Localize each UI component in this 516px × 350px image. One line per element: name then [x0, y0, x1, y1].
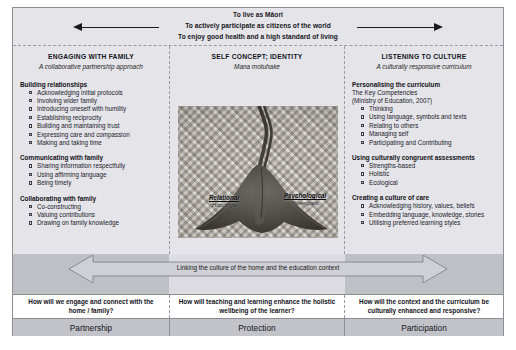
column-engaging-with-family: ENGAGING WITH FAMILY A collaborative par… [13, 46, 169, 254]
ray-label-english: Relational [192, 194, 256, 202]
list-item: Participating and Contributing [361, 139, 498, 147]
group-heading: Using culturally congruent assessments [352, 154, 498, 161]
list-item-label: Using language, symbols and texts [369, 113, 467, 120]
list-item-label: Managing self [369, 130, 408, 137]
group-creating-a-culture-of-care: Creating a culture of care Acknowledging… [352, 194, 498, 227]
group-building-relationships: Building relationships Acknowledging ini… [20, 81, 164, 148]
checkbox-bullet-icon [29, 173, 32, 176]
list-item: Acknowledging history, values, beliefs [361, 202, 498, 210]
stingray-illustration [178, 106, 338, 238]
right-arrow-icon [434, 23, 443, 31]
principle-protection: Protection [169, 319, 345, 336]
list-item-label: Making and taking time [37, 139, 102, 146]
checkbox-bullet-icon [361, 107, 364, 110]
list-item: Drawing on family knowledge [29, 219, 164, 227]
ray-label-english: Psychological [270, 192, 338, 200]
aspiration-line-3: To enjoy good health and a high standard… [13, 32, 503, 43]
checkbox-bullet-icon [29, 164, 32, 167]
poster-frame: To live as Māori To actively participate… [12, 7, 504, 336]
right-arrow-shaft [357, 27, 435, 28]
question-cell-protection: How will teaching and learning enhance t… [169, 295, 345, 318]
group-note-line-2: (Ministry of Education, 2007) [352, 97, 498, 105]
list-item-label: Holistic [369, 170, 389, 177]
left-arrow-icon [73, 23, 82, 31]
aspiration-line-1: To live as Māori [13, 10, 503, 21]
checkbox-bullet-icon [29, 213, 32, 216]
bullet-list: Co-constructing Valuing contributions Dr… [20, 203, 164, 228]
bullet-list: Acknowledging initial protocols Involvin… [20, 89, 164, 148]
list-item: Being timely [29, 179, 164, 187]
list-item: Thinking [361, 105, 498, 113]
left-column-body: Building relationships Acknowledging ini… [13, 81, 169, 228]
bullet-list: Thinking Using language, symbols and tex… [352, 105, 498, 147]
group-note-line-1: The Key Competencies [352, 89, 498, 97]
list-item-label: Co-constructing [37, 203, 81, 210]
list-item-label: Introducing oneself with humility [37, 105, 126, 112]
aspiration-band: To live as Māori To actively participate… [13, 8, 503, 46]
list-item: Co-constructing [29, 203, 164, 211]
checkbox-bullet-icon [361, 141, 364, 144]
bullet-list: Sharing information respectfully Using a… [20, 162, 164, 187]
column-subtitle-left: A collaborative partnership approach [13, 63, 169, 70]
list-item: Sharing information respectfully [29, 162, 164, 170]
list-item: Utilising preferred learning styles [361, 219, 498, 227]
right-column-body: Personalising the curriculum The Key Com… [345, 81, 503, 228]
list-item: Establishing reciprocity [29, 114, 164, 122]
column-subtitle-right: A culturally responsive curriculum [345, 63, 503, 70]
checkbox-bullet-icon [29, 205, 32, 208]
ray-label-maori: Hinengaro [270, 200, 338, 208]
group-culturally-congruent-assessments: Using culturally congruent assessments S… [352, 154, 498, 187]
checkbox-bullet-icon [361, 172, 364, 175]
list-item: Using language, symbols and texts [361, 113, 498, 121]
ray-label-psychological: Psychological Hinengaro [270, 192, 338, 207]
column-title-center: SELF CONCEPT; IDENTITY [170, 53, 344, 60]
list-item-label: Using affirming language [37, 171, 107, 178]
list-item-label: Utilising preferred learning styles [369, 219, 460, 226]
checkbox-bullet-icon [361, 221, 364, 224]
column-self-concept-identity: SELF CONCEPT; IDENTITY Mana motuhake [169, 46, 345, 254]
checkbox-bullet-icon [29, 124, 32, 127]
list-item-label: Relating to others [369, 122, 418, 129]
column-listening-to-culture: LISTENING TO CULTURE A culturally respon… [345, 46, 503, 254]
checkbox-bullet-icon [361, 115, 364, 118]
linking-text: Linking the culture of the home and the … [69, 264, 447, 271]
list-item-label: Building and maintaining trust [37, 122, 120, 129]
checkbox-bullet-icon [29, 99, 32, 102]
principle-participation: Participation [345, 319, 503, 336]
list-item-label: Being timely [37, 179, 71, 186]
list-item: Using affirming language [29, 171, 164, 179]
checkbox-bullet-icon [29, 221, 32, 224]
list-item: Relating to others [361, 122, 498, 130]
stingray-on-woven-mat-photo: Relational Hononga Psychological Hinenga… [178, 106, 338, 238]
list-item: Expressing care and compassion [29, 131, 164, 139]
list-item: Ecological [361, 179, 498, 187]
list-item-label: Embedding language, knowledge, stories [369, 211, 484, 218]
list-item-label: Valuing contributions [37, 211, 95, 218]
group-heading: Communicating with family [20, 154, 164, 161]
list-item: Acknowledging initial protocols [29, 89, 164, 97]
list-item-label: Involving wider family [37, 97, 97, 104]
checkbox-bullet-icon [29, 107, 32, 110]
checkbox-bullet-icon [361, 181, 364, 184]
list-item: Embedding language, knowledge, stories [361, 211, 498, 219]
list-item-label: Establishing reciprocity [37, 114, 101, 121]
checkbox-bullet-icon [29, 91, 32, 94]
list-item: Building and maintaining trust [29, 122, 164, 130]
checkbox-bullet-icon [29, 181, 32, 184]
checkbox-bullet-icon [29, 133, 32, 136]
list-item-label: Participating and Contributing [369, 139, 452, 146]
checkbox-bullet-icon [361, 213, 364, 216]
checkbox-bullet-icon [361, 164, 364, 167]
group-communicating-with-family: Communicating with family Sharing inform… [20, 154, 164, 187]
list-item: Holistic [361, 170, 498, 178]
group-heading: Creating a culture of care [352, 194, 498, 201]
column-title-left: ENGAGING WITH FAMILY [13, 53, 169, 60]
columns-region: ENGAGING WITH FAMILY A collaborative par… [13, 46, 503, 254]
checkbox-bullet-icon [29, 141, 32, 144]
list-item-label: Strengths-based [369, 162, 415, 169]
checkbox-bullet-icon [361, 204, 364, 207]
column-subtitle-center: Mana motuhake [170, 63, 344, 70]
list-item-label: Acknowledging initial protocols [37, 89, 123, 96]
list-item: Strengths-based [361, 162, 498, 170]
group-heading: Building relationships [20, 81, 164, 88]
